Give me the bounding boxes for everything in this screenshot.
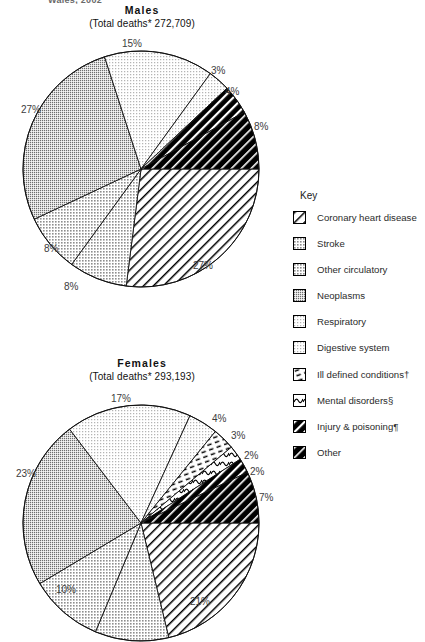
swatch-neoplasms-icon	[293, 289, 306, 302]
legend-item-8: Injury & poisoning¶	[293, 420, 425, 434]
legend-item-label: Injury & poisoning¶	[317, 421, 398, 432]
legend-item-3: Neoplasms	[293, 289, 425, 303]
males-chart-title: Males	[12, 4, 272, 16]
males-percent-label: 8%	[254, 121, 268, 132]
legend-item-label: Ill defined conditions†	[317, 369, 409, 380]
females-percent-label: 17%	[111, 393, 131, 404]
legend-item-5: Digestive system	[293, 341, 425, 355]
females-pie-svg	[22, 404, 260, 642]
males-percent-label: 4%	[225, 86, 239, 97]
females-percent-label: 21%	[190, 596, 210, 607]
swatch-other-icon	[293, 446, 306, 459]
legend-item-label: Digestive system	[317, 342, 390, 353]
females-percent-label: 4%	[212, 413, 226, 424]
males-percent-label: 3%	[211, 65, 225, 76]
legend-title: Key	[300, 190, 425, 201]
swatch-coronary-heart-disease-icon	[293, 211, 306, 224]
swatch-other-circulatory-icon	[293, 263, 306, 276]
legend-item-label: Neoplasms	[317, 290, 365, 301]
males-percent-label: 8%	[44, 243, 58, 254]
females-percent-label: 3%	[231, 430, 245, 441]
legend-item-4: Respiratory	[293, 315, 425, 329]
females-pie-chart	[22, 404, 260, 642]
males-percent-label: 15%	[122, 38, 142, 49]
legend-item-label: Coronary heart disease	[317, 212, 417, 223]
males-percent-label: 27%	[193, 260, 213, 271]
swatch-ill-defined-conditions-icon	[293, 368, 306, 381]
females-chart-subtitle: (Total deaths* 293,193)	[12, 371, 272, 382]
males-percent-label: 8%	[64, 281, 78, 292]
legend-item-6: Ill defined conditions†	[293, 367, 425, 381]
swatch-stroke-icon	[293, 237, 306, 250]
swatch-injury-poisoning-icon	[293, 420, 306, 433]
females-percent-label: 2%	[244, 450, 258, 461]
legend-item-label: Other circulatory	[317, 264, 387, 275]
legend-item-1: Stroke	[293, 236, 425, 250]
females-percent-label: 23%	[16, 468, 36, 479]
legend-item-2: Other circulatory	[293, 262, 425, 276]
legend-item-label: Mental disorders§	[317, 395, 393, 406]
females-percent-label: 7%	[259, 492, 273, 503]
legend-item-label: Other	[317, 447, 341, 458]
males-percent-label: 27%	[21, 104, 41, 115]
legend: Key Coronary heart diseaseStrokeOther ci…	[293, 190, 425, 472]
swatch-respiratory-icon	[293, 315, 306, 328]
males-chart-subtitle: (Total deaths* 272,709)	[12, 18, 272, 29]
legend-item-7: Mental disorders§	[293, 393, 425, 407]
legend-item-9: Other	[293, 446, 425, 460]
females-chart-title: Females	[12, 357, 272, 369]
swatch-mental-disorders-icon	[293, 394, 306, 407]
females-percent-label: 10%	[56, 584, 76, 595]
legend-item-0: Coronary heart disease	[293, 210, 425, 224]
females-percent-label: 2%	[250, 466, 264, 477]
swatch-digestive-system-icon	[293, 341, 306, 354]
legend-item-label: Respiratory	[317, 316, 366, 327]
legend-item-label: Stroke	[317, 238, 345, 249]
